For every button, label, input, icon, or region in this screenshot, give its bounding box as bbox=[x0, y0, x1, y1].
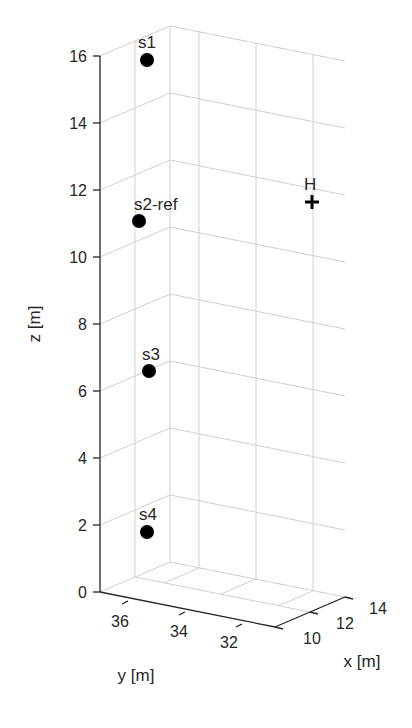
y-tick-labels: 36 34 32 bbox=[111, 613, 238, 651]
x-tick: 14 bbox=[369, 600, 387, 617]
y-tick: 36 bbox=[111, 613, 129, 630]
x-axis-label: x [m] bbox=[344, 652, 381, 671]
z-tick: 2 bbox=[78, 517, 87, 534]
label-s3: s3 bbox=[142, 345, 160, 364]
point-s1 bbox=[140, 53, 154, 67]
z-tick: 12 bbox=[69, 182, 87, 199]
scatter3d-chart: 0 2 4 6 8 10 12 14 16 36 34 32 10 12 14 … bbox=[0, 0, 412, 728]
z-tick: 10 bbox=[69, 249, 87, 266]
z-tick: 16 bbox=[69, 48, 87, 65]
label-s2-ref: s2-ref bbox=[134, 195, 178, 214]
z-tick: 6 bbox=[78, 383, 87, 400]
label-s1: s1 bbox=[138, 33, 156, 52]
z-tick-labels: 0 2 4 6 8 10 12 14 16 bbox=[69, 48, 87, 601]
label-h: H bbox=[304, 175, 316, 194]
point-s4 bbox=[140, 525, 154, 539]
y-tick: 32 bbox=[220, 634, 238, 651]
y-tick: 34 bbox=[170, 623, 188, 640]
sensor-points bbox=[132, 53, 156, 539]
z-tick: 4 bbox=[78, 450, 87, 467]
point-s3 bbox=[142, 364, 156, 378]
z-tick: 0 bbox=[78, 584, 87, 601]
x-tick-labels: 10 12 14 bbox=[303, 600, 387, 647]
z-tick: 14 bbox=[69, 115, 87, 132]
x-tick: 12 bbox=[336, 615, 354, 632]
x-tick: 10 bbox=[303, 630, 321, 647]
point-s2-ref bbox=[132, 214, 146, 228]
z-tick: 8 bbox=[78, 316, 87, 333]
grid bbox=[100, 26, 345, 612]
label-s4: s4 bbox=[139, 505, 157, 524]
axes bbox=[93, 56, 353, 629]
point-h-plus-icon bbox=[305, 195, 319, 209]
point-labels: s1 s2-ref s3 s4 H bbox=[134, 33, 316, 524]
z-axis-label: z [m] bbox=[25, 306, 44, 343]
y-axis-label: y [m] bbox=[118, 666, 155, 685]
